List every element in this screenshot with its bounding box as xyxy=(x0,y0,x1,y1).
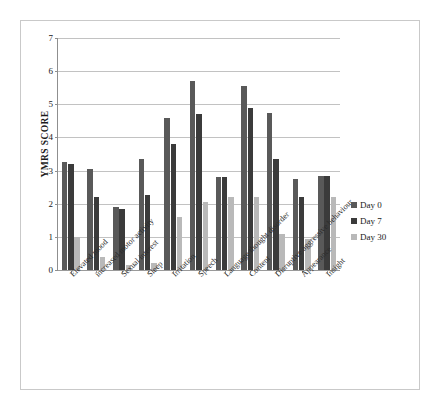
y-tick-label: 3 xyxy=(49,166,54,175)
y-tick-label: 0 xyxy=(49,266,54,275)
legend-item[interactable]: Day 30 xyxy=(351,229,417,245)
legend-swatch-icon xyxy=(351,202,357,208)
legend-swatch-icon xyxy=(351,234,357,240)
bar xyxy=(241,86,247,270)
legend-label: Day 0 xyxy=(360,200,382,210)
bar xyxy=(222,177,228,270)
x-axis-labels: Elevated moodincreased motor activitySex… xyxy=(58,273,340,388)
y-tick-label: 1 xyxy=(49,232,54,241)
bar-chart: YMRS SCORE 76543210 Elevated moodincreas… xyxy=(21,21,421,391)
bar-group xyxy=(161,38,187,270)
legend-label: Day 30 xyxy=(360,232,386,242)
bar xyxy=(171,144,177,270)
bar-group xyxy=(212,38,238,270)
bar xyxy=(254,197,260,270)
legend-swatch-icon xyxy=(351,218,357,224)
legend-item[interactable]: Day 7 xyxy=(351,213,417,229)
bar xyxy=(331,197,337,270)
legend-item[interactable]: Day 0 xyxy=(351,197,417,213)
bar-group xyxy=(58,38,84,270)
bar xyxy=(216,177,222,270)
bar xyxy=(267,113,273,270)
bar xyxy=(164,118,170,270)
bar-group xyxy=(186,38,212,270)
bar xyxy=(273,159,279,270)
bar-group xyxy=(84,38,110,270)
y-tick-mark xyxy=(55,270,58,271)
legend-label: Day 7 xyxy=(360,216,382,226)
bar xyxy=(62,162,68,270)
chart-legend: Day 0Day 7Day 30 xyxy=(351,197,417,245)
y-tick-label: 5 xyxy=(49,100,54,109)
bar xyxy=(190,81,196,270)
bar xyxy=(119,209,125,270)
figure-frame: YMRS SCORE 76543210 Elevated moodincreas… xyxy=(20,20,420,390)
y-tick-label: 2 xyxy=(49,199,54,208)
y-tick-label: 7 xyxy=(49,34,54,43)
bar xyxy=(228,197,234,270)
bar xyxy=(196,114,202,270)
bar xyxy=(68,164,74,270)
y-axis-title: YMRS SCORE xyxy=(40,74,50,214)
plot-area: 76543210 xyxy=(58,38,340,270)
bar-groups xyxy=(58,38,340,270)
bar xyxy=(299,197,305,270)
y-tick-label: 4 xyxy=(49,133,54,142)
y-tick-label: 6 xyxy=(49,67,54,76)
